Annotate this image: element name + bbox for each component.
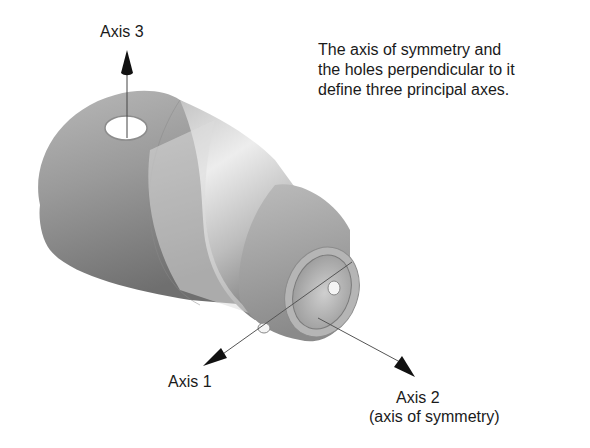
side-hole-far	[328, 281, 340, 295]
axis3-arrowhead	[121, 50, 133, 75]
axis2-label: Axis 2	[396, 388, 440, 407]
top-hole	[105, 116, 147, 140]
axis2-arrowhead	[394, 356, 415, 377]
axis1-label: Axis 1	[168, 372, 212, 391]
axis3-label: Axis 3	[100, 22, 144, 41]
caption-text: The axis of symmetry and the holes perpe…	[318, 40, 578, 100]
axis2-sublabel: (axis of symmetry)	[369, 407, 500, 426]
caption-line: the holes perpendicular to it	[318, 60, 578, 80]
caption-line: define three principal axes.	[318, 80, 578, 100]
caption-line: The axis of symmetry and	[318, 40, 578, 60]
axis1-arrowhead	[203, 348, 227, 366]
axis2-line	[318, 318, 400, 362]
